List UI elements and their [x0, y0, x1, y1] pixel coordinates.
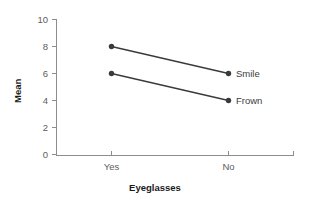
x-axis: Yes No Eyeglasses — [57, 151, 295, 194]
series-frown-point-yes — [109, 71, 114, 76]
chart-canvas: 10 8 6 4 2 0 Mean Yes No Eyeglasses Smil… — [0, 0, 312, 201]
series-frown-line — [112, 74, 229, 101]
interaction-plot-chart: 10 8 6 4 2 0 Mean Yes No Eyeglasses Smil… — [0, 0, 312, 201]
y-axis-title: Mean — [12, 79, 23, 103]
series-frown-label: Frown — [236, 95, 262, 106]
y-axis: 10 8 6 4 2 0 Mean — [12, 14, 57, 160]
x-tick-label-yes: Yes — [104, 161, 120, 172]
series-smile-label: Smile — [236, 68, 260, 79]
series-frown-point-no — [226, 98, 231, 103]
y-tick-label-10: 10 — [37, 14, 48, 25]
x-tick-label-no: No — [222, 161, 234, 172]
y-tick-label-4: 4 — [43, 95, 48, 106]
series-smile-line — [112, 47, 229, 74]
y-tick-label-6: 6 — [43, 68, 48, 79]
y-tick-label-0: 0 — [43, 149, 48, 160]
x-axis-title: Eyeglasses — [129, 182, 181, 193]
y-tick-label-2: 2 — [43, 122, 48, 133]
series-smile: Smile — [109, 44, 260, 79]
y-tick-label-8: 8 — [43, 41, 48, 52]
series-smile-point-yes — [109, 44, 114, 49]
series-smile-point-no — [226, 71, 231, 76]
